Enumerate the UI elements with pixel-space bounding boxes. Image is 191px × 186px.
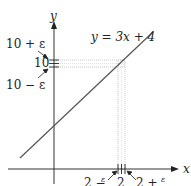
x-tick-right-frac-num: ε bbox=[161, 175, 165, 184]
x-axis-arrow-icon bbox=[171, 166, 179, 172]
y-tick-lower-label: 10 − ε bbox=[6, 78, 45, 92]
x-tick-right-label: 2 + bbox=[136, 176, 158, 186]
horizontal-epsilon-band bbox=[56, 60, 124, 67]
x-tick-left-frac-num: ε bbox=[101, 175, 105, 184]
equation-label: y = 3x + 4 bbox=[90, 30, 155, 44]
epsilon-delta-diagram: y x y = 3x + 4 10 + ε 10 10 − ε 2 − ε 2 … bbox=[0, 0, 191, 186]
x-axis-label: x bbox=[183, 162, 190, 176]
x-tick-center-label: 2 bbox=[117, 176, 125, 186]
y-tick-upper-label: 10 + ε bbox=[6, 37, 45, 51]
vertical-delta-band bbox=[118, 60, 125, 169]
y-tick-center-label: 10 bbox=[34, 56, 49, 70]
y-axis-label: y bbox=[49, 9, 57, 23]
